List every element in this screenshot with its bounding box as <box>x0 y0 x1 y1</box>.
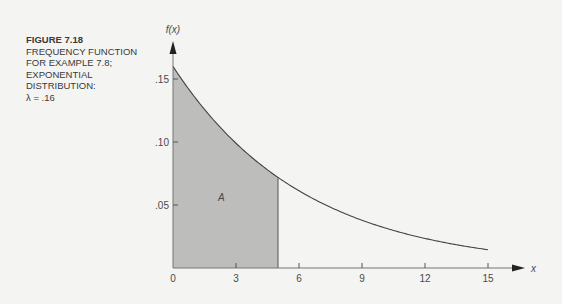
shaded-region <box>173 66 278 268</box>
x-tick-label: 0 <box>170 273 176 284</box>
x-axis-arrow-icon <box>512 265 525 272</box>
y-axis-arrow-icon <box>170 41 177 54</box>
y-tick-label: .10 <box>155 137 169 148</box>
x-tick-label: 6 <box>296 273 302 284</box>
shaded-area-A: A <box>173 66 278 268</box>
x-tick-label: 12 <box>419 273 431 284</box>
x-tick-label: 3 <box>233 273 239 284</box>
y-tick-label: .15 <box>155 74 169 85</box>
exponential-chart: A 03691215.05.10.15 f(x)x <box>0 0 562 304</box>
y-tick-label: .05 <box>155 200 169 211</box>
x-tick-label: 9 <box>359 273 365 284</box>
x-tick-label: 15 <box>482 273 494 284</box>
y-axis-label: f(x) <box>166 24 180 35</box>
area-label-A: A <box>217 192 225 203</box>
x-axis-label: x <box>530 263 537 274</box>
